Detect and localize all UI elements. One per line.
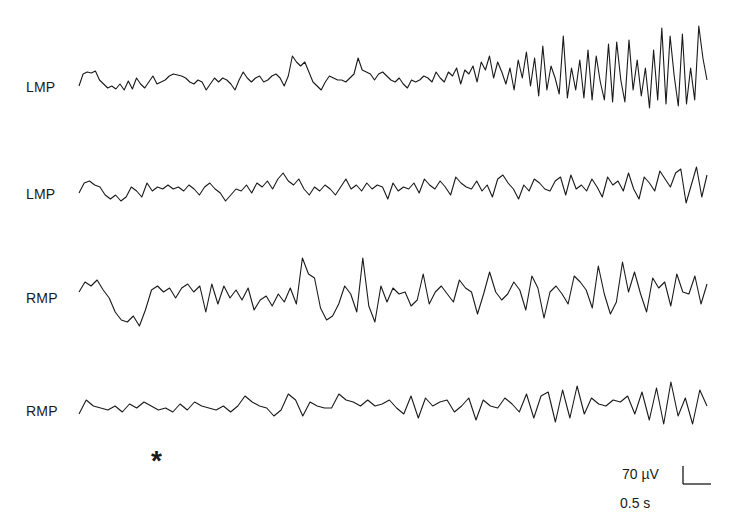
trace-group <box>79 26 707 424</box>
scale-bar <box>683 466 711 484</box>
scale-bar-time-label: 0.5 s <box>620 495 650 511</box>
event-marker-asterisk: * <box>151 447 162 475</box>
eeg-traces <box>0 0 730 529</box>
trace-4 <box>79 382 707 424</box>
scale-bar-amplitude-label: 70 µV <box>622 466 659 482</box>
trace-3 <box>79 258 707 326</box>
trace-2 <box>79 167 707 203</box>
trace-1 <box>79 26 707 108</box>
